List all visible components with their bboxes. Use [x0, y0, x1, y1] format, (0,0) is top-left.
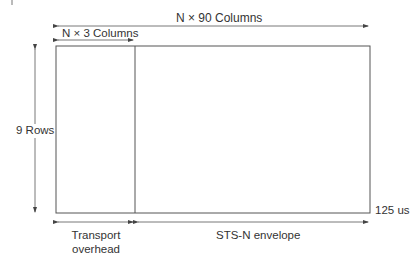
transport-overhead-label-line2: overhead: [62, 244, 130, 256]
sts-envelope-label: STS-N envelope: [216, 230, 300, 242]
frame-rectangle: [56, 46, 370, 213]
overhead-columns-label: N × 3 Columns: [62, 28, 138, 40]
transport-overhead-label-line1: Transport: [62, 230, 130, 242]
rows-label: 9 Rows: [16, 124, 54, 138]
total-columns-label: N × 90 Columns: [176, 12, 262, 24]
frame-duration-label: 125 us: [375, 205, 410, 217]
